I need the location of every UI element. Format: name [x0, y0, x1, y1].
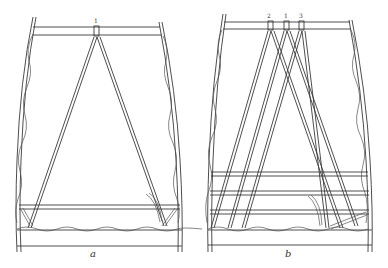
left-wall-outer	[208, 14, 223, 252]
panel-label-a: a	[90, 248, 96, 259]
panel-a: 1 a	[16, 17, 202, 259]
strand-label-1: 1	[94, 17, 98, 24]
right-membrane	[163, 36, 179, 223]
figure-diagram: 1 a 2 1 3	[0, 0, 388, 268]
hook	[308, 196, 320, 226]
strand-label-3: 3	[299, 12, 303, 19]
strand-post-1	[94, 26, 99, 36]
panel-label-b: b	[285, 248, 291, 259]
strand-label-2: 2	[267, 12, 271, 19]
panel-b: 2 1 3 b	[206, 12, 373, 259]
strand-label-1: 1	[284, 12, 288, 19]
